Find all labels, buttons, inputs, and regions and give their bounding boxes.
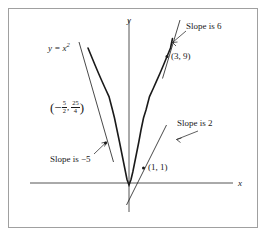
coord-close-paren: ) [80,101,84,114]
point-label-1-1: (1, 1) [148,163,168,172]
point-label-3-9: (3, 9) [171,52,191,61]
arrowhead-slope-6 [173,42,178,46]
slope-2-label: Slope is 2 [177,119,213,128]
curve-equation-text: y = x [48,43,67,53]
figure-container: y x y = x2 Slope is 6 (3, 9) Slope is 2 … [0,0,269,238]
leader-slope-6 [173,31,187,43]
y-axis-label: y [127,16,131,25]
fraction-y-denominator: 4 [71,108,80,115]
point-dot-1-1 [142,167,145,170]
fraction-y: 25 4 [71,100,80,115]
curve-equation-label: y = x2 [48,42,70,53]
point-dot-3-9 [166,55,169,58]
tangent-line-slope-neg5 [79,42,114,162]
arrowhead-slope-2 [177,138,182,143]
coord-comma: , [67,103,69,112]
curve-equation-exponent: 2 [67,41,70,48]
point-label-neg-5-2-25-4: (− 5 2 , 25 4 ) [50,100,84,115]
leader-slope-neg5 [94,142,107,154]
slope-6-label: Slope is 6 [186,22,222,31]
slope-neg5-label: Slope is −5 [50,155,91,164]
x-axis-label: x [238,179,242,188]
coord-open-paren: (− [50,101,62,114]
tangent-line-slope-6 [163,20,181,79]
parabola-plot [0,0,269,238]
